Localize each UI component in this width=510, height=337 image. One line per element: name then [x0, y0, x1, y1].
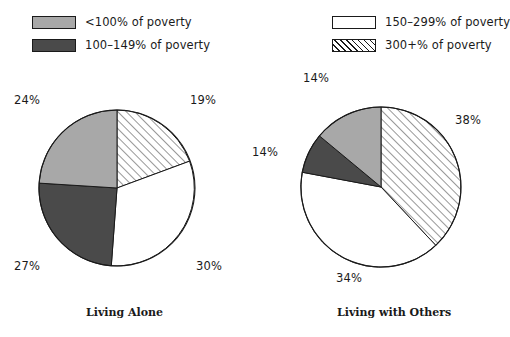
pie-label-300plus-right: 38% [455, 113, 481, 127]
legend-left: <100% of poverty 100–149% of poverty [32, 12, 210, 58]
pie-label-100-149-right: 14% [252, 145, 278, 159]
legend-item-label: 300+% of poverty [385, 38, 492, 52]
pie-svg-living-with-others [291, 97, 471, 277]
legend-item: <100% of poverty [32, 12, 210, 32]
pie-label-150-299-left: 30% [196, 259, 222, 273]
pie-svg-living-alone [29, 100, 205, 276]
legend-swatch-dark-gray [32, 39, 76, 52]
pie-chart-living-with-others [291, 97, 471, 277]
legend-item: 300+% of poverty [332, 35, 510, 55]
legend-right: 150–299% of poverty 300+% of poverty [332, 12, 510, 58]
legend-swatch-hatched [332, 39, 376, 52]
pie-label-under-100-left: 24% [14, 93, 40, 107]
legend-item-label: 150–299% of poverty [385, 15, 510, 29]
pie-label-300plus-left: 19% [190, 93, 216, 107]
pie-slice-under-100 [39, 110, 117, 188]
pie-title-living-with-others: Living with Others [337, 306, 451, 319]
legend-swatch-white [332, 16, 376, 29]
pie-slice-100-149 [39, 183, 117, 266]
legend-item: 100–149% of poverty [32, 35, 210, 55]
legend-item: 150–299% of poverty [332, 12, 510, 32]
pie-title-living-alone: Living Alone [86, 306, 163, 319]
legend-item-label: <100% of poverty [85, 15, 192, 29]
legend-swatch-light-gray [32, 16, 76, 29]
pie-label-150-299-right: 34% [336, 271, 362, 285]
pie-chart-living-alone [29, 100, 205, 276]
pie-label-under-100-right: 14% [303, 71, 329, 85]
legend-item-label: 100–149% of poverty [85, 38, 210, 52]
pie-label-100-149-left: 27% [14, 259, 40, 273]
